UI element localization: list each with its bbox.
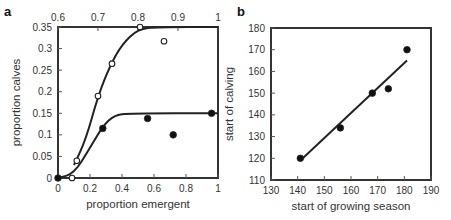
x-tick-label: 170 [369, 185, 386, 196]
y-tick-label: 120 [248, 153, 265, 164]
x-tick-label: 190 [423, 185, 440, 196]
y-tick-label: 0.2 [38, 86, 52, 97]
x-tick-label: 150 [316, 185, 333, 196]
x2-tick-label: 1 [215, 12, 221, 23]
x-axis-title: start of growing season [292, 200, 411, 212]
x-axis-title: proportion emergent [86, 198, 190, 210]
y-tick-label: 0.15 [33, 108, 53, 119]
y-tick-label: 0 [46, 173, 52, 184]
y-tick-label: 0.35 [33, 22, 53, 33]
data-point-open [109, 61, 115, 67]
x-tick-label: 140 [289, 185, 306, 196]
x-tick-label: 0.4 [115, 183, 129, 194]
y-tick-label: 0.1 [38, 129, 52, 140]
data-point-filled [100, 125, 107, 132]
data-point-filled [297, 155, 304, 162]
panel-label: a [4, 4, 12, 19]
data-point-open [161, 38, 167, 44]
x-tick-label: 0.8 [179, 183, 193, 194]
data-point-filled [55, 175, 62, 182]
x-tick-label: 0.6 [147, 183, 161, 194]
data-point-filled [369, 90, 376, 97]
data-point-open [69, 175, 75, 181]
y-tick-label: 0.3 [38, 43, 52, 54]
data-point-filled [337, 125, 344, 132]
panel-a: a00.050.10.150.20.250.30.3500.20.40.60.8… [4, 4, 221, 210]
y-tick-label: 160 [248, 66, 265, 77]
panel-b: b110120130140150160170180130140150160170… [223, 4, 440, 212]
y-tick-label: 0.25 [33, 65, 53, 76]
data-point-open [95, 93, 101, 99]
y-tick-label: 110 [249, 175, 265, 186]
y-tick-label: 130 [248, 131, 265, 142]
data-point-open [137, 24, 143, 30]
data-point-open [74, 158, 80, 164]
data-point-filled [144, 115, 151, 122]
x2-tick-label: 0.8 [131, 12, 145, 23]
y-axis-title: start of calving [223, 67, 235, 141]
data-point-filled [385, 86, 392, 93]
data-point-filled [170, 132, 177, 139]
plot-frame [58, 27, 218, 178]
x-tick-label: 180 [396, 185, 413, 196]
x2-tick-label: 0.7 [91, 12, 105, 23]
x2-tick-label: 0.6 [51, 12, 65, 23]
x-tick-label: 1 [215, 183, 221, 194]
y-tick-label: 0.05 [33, 151, 53, 162]
y-tick-label: 140 [248, 109, 265, 120]
y-tick-label: 150 [248, 88, 265, 99]
fit-curve [300, 61, 407, 161]
x-tick-label: 130 [263, 185, 280, 196]
y-tick-label: 180 [248, 23, 265, 34]
data-point-filled [208, 110, 215, 117]
panel-label: b [237, 4, 245, 19]
data-point-filled [404, 46, 411, 53]
x2-tick-label: 0.9 [171, 12, 185, 23]
y-axis-title: proportion calves [10, 58, 22, 146]
x-tick-label: 0 [55, 183, 61, 194]
x-tick-label: 0.2 [83, 183, 97, 194]
figure: a00.050.10.150.20.250.30.3500.20.40.60.8… [0, 0, 451, 220]
x-tick-label: 160 [343, 185, 360, 196]
y-tick-label: 170 [248, 44, 265, 55]
